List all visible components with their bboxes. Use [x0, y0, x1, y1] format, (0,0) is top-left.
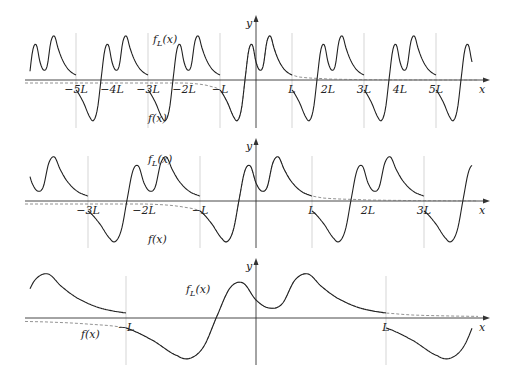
tick-label: 2L	[360, 204, 375, 217]
f-label: f(x)	[147, 233, 167, 246]
panel-1: xy−5L−4L−3L−2L−LL2L3L4L5LfL(x)f(x)	[25, 15, 490, 128]
x-axis-label: x	[479, 83, 486, 96]
x-axis-arrow-icon	[483, 199, 490, 204]
fL-curve-segment	[88, 157, 200, 242]
panel-2: xy−3L−2L−LL2L3LfL(x)f(x)	[25, 138, 490, 248]
fL-curve-segment	[148, 36, 220, 121]
tick-label: −3L	[76, 204, 100, 217]
tick-label: 4L	[392, 83, 407, 96]
fL-curve-segment	[364, 36, 436, 121]
fL-curve-segment	[424, 165, 472, 242]
tick-label: L	[381, 321, 389, 334]
tick-label: 2L	[320, 83, 335, 96]
x-axis-label: x	[479, 321, 486, 334]
y-axis-arrow-icon	[254, 258, 259, 265]
y-axis-label: y	[245, 140, 253, 153]
tick-label: −L	[192, 204, 209, 217]
fL-curve-segment	[30, 36, 76, 75]
tick-label: 5L	[429, 83, 443, 96]
tick-label: 3L	[357, 83, 371, 96]
f-label: f(x)	[147, 112, 167, 125]
fL-curve-segment	[292, 36, 364, 121]
panel-3: xy−LLfL(x)f(x)	[25, 258, 490, 365]
fL-curve-segment	[386, 328, 472, 359]
f-label: f(x)	[80, 328, 100, 341]
tick-label: −2L	[132, 204, 156, 217]
tick-label: −L	[212, 83, 229, 96]
fL-curve-segment	[312, 157, 424, 242]
fL-label: fL(x)	[152, 33, 177, 48]
tick-label: −4L	[100, 83, 124, 96]
x-axis-arrow-icon	[483, 78, 490, 83]
tick-label: −2L	[172, 83, 196, 96]
fL-curve-segment	[30, 157, 88, 196]
y-axis-label: y	[245, 260, 253, 273]
periodic-extension-figure: xy−5L−4L−3L−2L−LL2L3L4L5LfL(x)f(x) xy−3L…	[0, 0, 509, 383]
x-axis-arrow-icon	[483, 316, 490, 321]
fL-curve-segment	[76, 36, 148, 121]
tick-label: −5L	[64, 83, 88, 96]
fL-label: fL(x)	[185, 283, 210, 298]
fL-curve-segment	[30, 274, 126, 313]
y-axis-arrow-icon	[254, 138, 259, 145]
fL-label: fL(x)	[147, 153, 172, 168]
y-axis-arrow-icon	[254, 15, 259, 22]
x-axis-label: x	[479, 204, 486, 217]
tick-label: L	[307, 204, 315, 217]
f-curve-dashed	[25, 274, 478, 359]
y-axis-label: y	[245, 17, 253, 30]
tick-label: −3L	[136, 83, 160, 96]
tick-label: −L	[118, 321, 135, 334]
